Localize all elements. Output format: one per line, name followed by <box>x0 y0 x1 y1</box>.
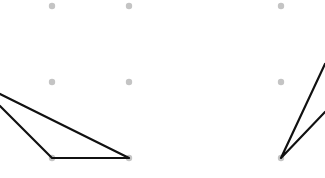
grid-dot <box>126 3 132 9</box>
grid-dot <box>49 3 55 9</box>
grid-dot <box>278 3 284 9</box>
right-wedge-shape <box>281 64 325 158</box>
grid-dot <box>278 79 284 85</box>
grid-dots <box>49 3 284 161</box>
dot-grid-diagram <box>0 0 325 178</box>
grid-dot <box>126 79 132 85</box>
left-triangle-shape <box>0 94 129 158</box>
grid-dot <box>49 79 55 85</box>
